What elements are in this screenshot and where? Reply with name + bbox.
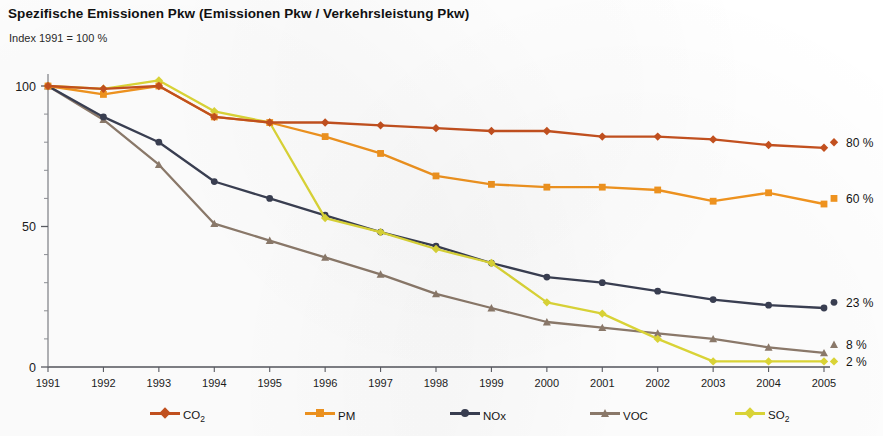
data-point-marker bbox=[820, 144, 828, 152]
data-point-marker bbox=[598, 309, 606, 317]
legend-label-nox: NOx bbox=[483, 411, 506, 423]
data-point-marker bbox=[710, 198, 717, 205]
data-point-marker bbox=[710, 296, 717, 303]
end-label-pm: 60 % bbox=[846, 192, 874, 206]
data-point-marker bbox=[599, 184, 606, 191]
data-point-marker bbox=[821, 305, 828, 312]
data-point-marker bbox=[322, 133, 329, 140]
chart-series-layer bbox=[44, 76, 828, 365]
data-point-marker bbox=[821, 201, 828, 208]
data-point-marker bbox=[487, 127, 495, 135]
legend-label-subscript: 2 bbox=[785, 414, 790, 424]
chart-root: Spezifische Emissionen Pkw (Emissionen P… bbox=[0, 0, 883, 436]
x-axis-tick-label: 2002 bbox=[645, 377, 669, 389]
legend-label-so2: SO2 bbox=[768, 410, 789, 424]
data-point-marker bbox=[764, 357, 772, 365]
end-label-nox: 23 % bbox=[846, 296, 874, 310]
x-axis-tick-label: 1997 bbox=[368, 377, 392, 389]
chart-plot-area: 0501001991199219931994199519961997199819… bbox=[0, 0, 883, 400]
chart-end-labels: 80 %60 %23 %8 %2 % bbox=[830, 136, 874, 369]
legend-item-so2[interactable]: SO2 bbox=[735, 398, 789, 428]
data-point-marker bbox=[820, 357, 828, 365]
legend-item-pm[interactable]: PM bbox=[305, 398, 355, 428]
legend-item-nox[interactable]: NOx bbox=[450, 398, 506, 428]
data-point-marker bbox=[377, 150, 384, 157]
data-point-marker bbox=[376, 121, 384, 129]
end-label-so2: 2 % bbox=[846, 355, 867, 369]
data-point-marker bbox=[155, 139, 162, 146]
data-point-marker bbox=[266, 195, 273, 202]
legend-swatch-co2-icon bbox=[150, 407, 180, 419]
data-point-marker bbox=[543, 184, 550, 191]
data-point-marker bbox=[488, 181, 495, 188]
legend-item-voc[interactable]: VOC bbox=[590, 398, 648, 428]
legend-label-pm: PM bbox=[338, 411, 355, 423]
data-point-marker bbox=[211, 178, 218, 185]
x-axis-tick-label: 2004 bbox=[756, 377, 780, 389]
x-axis-tick-label: 1996 bbox=[313, 377, 337, 389]
x-axis-tick-label: 2001 bbox=[590, 377, 614, 389]
data-point-marker bbox=[654, 288, 661, 295]
data-point-marker bbox=[831, 299, 838, 306]
data-point-marker bbox=[709, 357, 717, 365]
chart-legend: CO2PMNOxVOCSO2 bbox=[0, 398, 883, 436]
legend-label-voc: VOC bbox=[623, 411, 648, 423]
data-point-marker bbox=[433, 173, 440, 180]
legend-swatch-pm-icon bbox=[305, 407, 335, 419]
data-point-marker bbox=[764, 141, 772, 149]
data-point-marker bbox=[100, 114, 107, 121]
x-axis-tick-label: 1993 bbox=[147, 377, 171, 389]
data-point-marker bbox=[543, 274, 550, 281]
x-axis-tick-label: 2003 bbox=[701, 377, 725, 389]
data-point-marker bbox=[765, 302, 772, 309]
legend-swatch-voc-icon bbox=[590, 407, 620, 419]
x-axis-tick-label: 1995 bbox=[257, 377, 281, 389]
series-nox bbox=[45, 83, 828, 312]
data-point-marker bbox=[830, 341, 838, 348]
series-voc bbox=[44, 82, 828, 356]
data-point-marker bbox=[830, 357, 838, 365]
legend-item-co2[interactable]: CO2 bbox=[150, 398, 205, 428]
data-point-marker bbox=[831, 195, 838, 202]
legend-label-co2: CO2 bbox=[183, 410, 205, 424]
data-point-marker bbox=[654, 187, 661, 194]
legend-swatch-nox-icon bbox=[450, 407, 480, 419]
end-label-co2: 80 % bbox=[846, 136, 874, 150]
data-point-marker bbox=[543, 127, 551, 135]
end-label-voc: 8 % bbox=[846, 338, 867, 352]
data-point-marker bbox=[432, 124, 440, 132]
data-point-marker bbox=[709, 135, 717, 143]
data-point-marker bbox=[765, 189, 772, 196]
series-so2 bbox=[44, 76, 828, 365]
legend-label-subscript: 2 bbox=[200, 414, 205, 424]
y-axis-tick-label: 50 bbox=[22, 220, 36, 234]
x-axis-tick-label: 2005 bbox=[812, 377, 836, 389]
x-axis-tick-label: 1991 bbox=[36, 377, 60, 389]
data-point-marker bbox=[654, 132, 662, 140]
x-axis-tick-label: 1998 bbox=[424, 377, 448, 389]
legend-swatch-so2-icon bbox=[735, 407, 765, 419]
x-axis-tick-label: 2000 bbox=[535, 377, 559, 389]
data-point-marker bbox=[599, 279, 606, 286]
x-axis-tick-label: 1994 bbox=[202, 377, 226, 389]
data-point-marker bbox=[598, 132, 606, 140]
x-axis-tick-label: 1992 bbox=[91, 377, 115, 389]
y-axis-tick-label: 0 bbox=[29, 361, 36, 375]
y-axis-tick-label: 100 bbox=[15, 80, 36, 94]
data-point-marker bbox=[321, 118, 329, 126]
data-point-marker bbox=[376, 228, 384, 236]
x-axis-tick-label: 1999 bbox=[479, 377, 503, 389]
data-point-marker bbox=[830, 138, 838, 146]
